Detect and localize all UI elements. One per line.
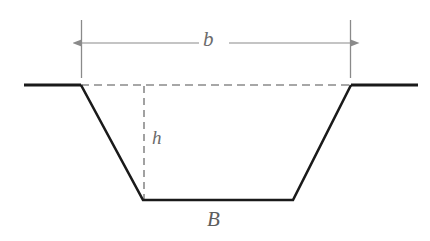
trapezoidal-channel-diagram [0, 0, 430, 241]
label-top-width-b: b [203, 29, 214, 50]
figure-container: b h B [0, 0, 430, 241]
channel-outline [81, 85, 351, 200]
label-bottom-width-B: B [207, 209, 220, 230]
label-depth-h: h [152, 128, 162, 147]
